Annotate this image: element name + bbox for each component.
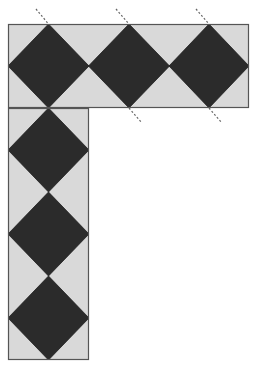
tile-pattern-diagram [0,0,253,366]
